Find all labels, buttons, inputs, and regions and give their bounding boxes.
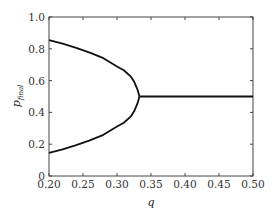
upper-branch-line [49, 40, 139, 96]
x-axis-label: q [147, 196, 154, 209]
lower-branch-line [49, 97, 139, 153]
y-tick-label: 0.6 [28, 75, 45, 87]
y-tick-label: 1.0 [28, 11, 45, 23]
y-axis-label: pfinal [10, 85, 25, 108]
bifurcation-chart: 0.200.250.300.350.400.450.50 00.20.40.60… [0, 0, 276, 213]
x-axis-ticks: 0.200.250.300.350.400.450.50 [37, 17, 264, 190]
x-tick-label: 0.35 [139, 178, 162, 190]
svg-text:pfinal: pfinal [10, 85, 25, 108]
y-tick-label: 0 [38, 170, 45, 182]
data-series [49, 40, 253, 153]
y-tick-label: 0.8 [28, 43, 45, 55]
x-tick-label: 0.50 [241, 178, 264, 190]
x-tick-label: 0.30 [105, 178, 128, 190]
x-tick-label: 0.40 [173, 178, 196, 190]
x-tick-label: 0.25 [71, 178, 94, 190]
y-axis-label-subscript: final [17, 85, 25, 102]
y-tick-label: 0.4 [28, 106, 45, 118]
y-tick-label: 0.2 [28, 138, 45, 150]
x-tick-label: 0.45 [207, 178, 230, 190]
y-axis-label-main: p [10, 100, 23, 107]
